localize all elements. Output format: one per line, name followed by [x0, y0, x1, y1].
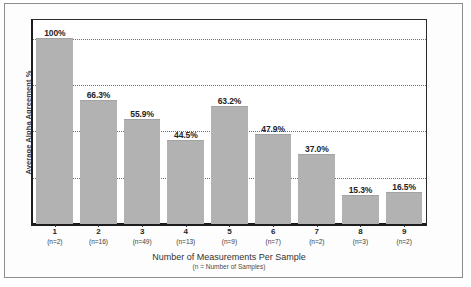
x-tick-3: 3(n=49) [120, 227, 164, 246]
bar-slot: 16.5% [382, 20, 426, 224]
x-tick-sample-count: (n=49) [120, 237, 164, 246]
bar [255, 134, 292, 224]
x-tick-number: 6 [251, 227, 295, 237]
tick-mark [55, 224, 56, 227]
x-axis-subtitle: (n = Number of Samples) [31, 263, 427, 270]
x-tick-sample-count: (n=2) [295, 237, 339, 246]
bar-value-label: 47.9% [251, 124, 295, 134]
x-tick-5: 5(n=9) [208, 227, 252, 246]
x-tick-8: 8(n=3) [339, 227, 383, 246]
bar-slot: 37.0% [295, 20, 339, 224]
bar-slot: 15.3% [339, 20, 383, 224]
x-tick-1: 1(n=2) [33, 227, 77, 246]
bar-slot: 63.2% [208, 20, 252, 224]
bar-series: 100%66.3%55.9%44.5%63.2%47.9%37.0%15.3%1… [33, 20, 426, 224]
x-tick-number: 1 [33, 227, 77, 237]
bar [386, 192, 423, 224]
bar [167, 140, 204, 224]
x-tick-number: 8 [339, 227, 383, 237]
x-tick-9: 9(n=2) [382, 227, 426, 246]
bar [211, 106, 248, 224]
x-tick-number: 7 [295, 227, 339, 237]
bar-slot: 100% [33, 20, 77, 224]
x-tick-sample-count: (n=7) [251, 237, 295, 246]
x-tick-number: 4 [164, 227, 208, 237]
x-tick-number: 3 [120, 227, 164, 237]
x-tick-2: 2(n=16) [77, 227, 121, 246]
x-tick-number: 2 [77, 227, 121, 237]
bar-value-label: 100% [33, 28, 77, 38]
x-axis-title: Number of Measurements Per Sample [31, 252, 427, 262]
bar [124, 119, 161, 224]
tick-mark [142, 224, 143, 227]
tick-mark [186, 224, 187, 227]
x-tick-6: 6(n=7) [251, 227, 295, 246]
bar-value-label: 66.3% [77, 90, 121, 100]
tick-mark [360, 224, 361, 227]
x-tick-sample-count: (n=16) [77, 237, 121, 246]
bar-slot: 55.9% [120, 20, 164, 224]
bar-value-label: 15.3% [339, 185, 383, 195]
bar [80, 100, 117, 224]
x-tick-sample-count: (n=2) [33, 237, 77, 246]
bar [36, 38, 73, 224]
x-tick-4: 4(n=13) [164, 227, 208, 246]
bar-value-label: 16.5% [382, 182, 426, 192]
tick-mark [317, 224, 318, 227]
bar-slot: 44.5% [164, 20, 208, 224]
tick-mark [273, 224, 274, 227]
tick-mark [404, 224, 405, 227]
x-tick-sample-count: (n=3) [339, 237, 383, 246]
bar-slot: 47.9% [251, 20, 295, 224]
x-tick-sample-count: (n=9) [208, 237, 252, 246]
bar-chart-figure: Average Alpha Agreement % 100%66.3%55.9%… [0, 0, 471, 287]
bar-value-label: 63.2% [208, 96, 252, 106]
tick-mark [229, 224, 230, 227]
tick-mark [98, 224, 99, 227]
x-tick-sample-count: (n=13) [164, 237, 208, 246]
bar-value-label: 44.5% [164, 130, 208, 140]
bar [342, 195, 379, 224]
x-tick-7: 7(n=2) [295, 227, 339, 246]
bar-value-label: 55.9% [120, 109, 164, 119]
bar-slot: 66.3% [77, 20, 121, 224]
x-tick-number: 5 [208, 227, 252, 237]
bar [298, 154, 335, 224]
plot-area: 100%66.3%55.9%44.5%63.2%47.9%37.0%15.3%1… [33, 20, 426, 224]
bar-value-label: 37.0% [295, 144, 339, 154]
x-axis-tick-labels: 1(n=2)2(n=16)3(n=49)4(n=13)5(n=9)6(n=7)7… [33, 227, 426, 251]
x-tick-number: 9 [382, 227, 426, 237]
x-tick-sample-count: (n=2) [382, 237, 426, 246]
